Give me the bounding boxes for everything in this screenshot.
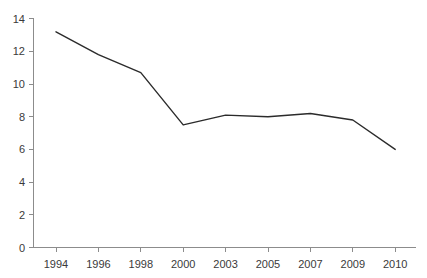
y-tick-label-4: 4 <box>19 176 25 188</box>
data-series-group <box>56 32 395 150</box>
y-tick-label-14: 14 <box>13 13 25 25</box>
x-tick-label-1998: 1998 <box>129 258 153 270</box>
x-tick-label-2003: 2003 <box>213 258 237 270</box>
x-tick-label-2000: 2000 <box>171 258 195 270</box>
y-tick-label-12: 12 <box>13 45 25 57</box>
y-tick-label-2: 2 <box>19 209 25 221</box>
y-tick-label-10: 10 <box>13 78 25 90</box>
x-tick-label-2007: 2007 <box>298 258 322 270</box>
y-tick-label-8: 8 <box>19 111 25 123</box>
x-tick-marks <box>56 248 395 253</box>
x-tick-label-1994: 1994 <box>44 258 68 270</box>
x-axis: 1994 1996 1998 2000 2003 2005 2007 2009 … <box>34 248 417 271</box>
x-tick-label-2005: 2005 <box>256 258 280 270</box>
y-tick-marks <box>29 19 34 248</box>
y-axis: 0 2 4 6 8 10 12 14 <box>13 13 34 254</box>
line-chart: 0 2 4 6 8 10 12 14 <box>0 0 427 278</box>
chart-canvas: 0 2 4 6 8 10 12 14 <box>0 0 427 278</box>
y-tick-label-0: 0 <box>19 242 25 254</box>
y-tick-labels: 0 2 4 6 8 10 12 14 <box>13 13 25 254</box>
x-tick-label-2010: 2010 <box>383 258 407 270</box>
x-tick-labels: 1994 1996 1998 2000 2003 2005 2007 2009 … <box>44 258 408 270</box>
x-tick-label-2009: 2009 <box>341 258 365 270</box>
data-line-series-0 <box>56 32 395 150</box>
x-tick-label-1996: 1996 <box>86 258 110 270</box>
y-tick-label-6: 6 <box>19 143 25 155</box>
